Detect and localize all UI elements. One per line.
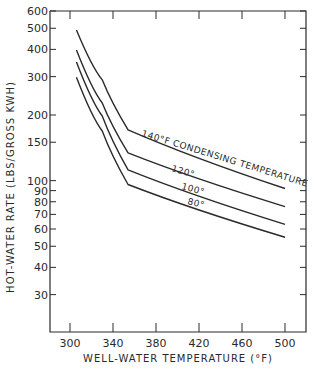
y-tick-label: 300: [27, 71, 48, 84]
x-axis-title: WELL-WATER TEMPERATURE (°F): [83, 353, 273, 364]
y-tick-label: 70: [34, 208, 48, 221]
y-tick-label: 600: [27, 5, 48, 18]
y-axis-title: HOT-WATER RATE (LBS/GROSS KWH): [5, 81, 16, 293]
y-tick-label: 50: [34, 240, 48, 253]
x-tick-label: 340: [103, 337, 124, 350]
x-tick-label: 420: [189, 337, 210, 350]
y-tick-label: 30: [34, 289, 48, 302]
curve-80: [76, 77, 285, 237]
y-tick-label: 80: [34, 196, 48, 209]
y-tick-label: 200: [27, 109, 48, 122]
y-tick-label: 100: [27, 175, 48, 188]
chart: 30405060708090100150200300400500600 3003…: [0, 0, 314, 377]
curve-label: 120°: [170, 163, 196, 179]
y-tick-label: 500: [27, 22, 48, 35]
curve-label: 140°F CONDENSING TEMPERATURE: [140, 128, 309, 188]
x-tick-label: 300: [60, 337, 81, 350]
curves: [76, 30, 285, 237]
x-tick-label: 460: [232, 337, 253, 350]
y-tick-label: 40: [34, 261, 48, 274]
y-tick-label: 60: [34, 223, 48, 236]
x-tick-label: 380: [146, 337, 167, 350]
y-tick-label: 400: [27, 43, 48, 56]
y-axis-ticks: 30405060708090100150200300400500600: [27, 5, 306, 302]
x-tick-label: 500: [275, 337, 296, 350]
y-tick-label: 150: [27, 136, 48, 149]
